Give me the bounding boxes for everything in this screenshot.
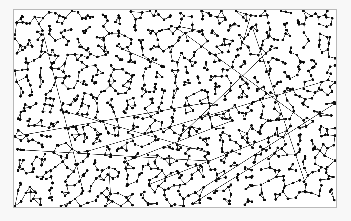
figure-root — [0, 0, 351, 221]
plot-area — [13, 9, 337, 208]
network-scatter-plot — [14, 10, 336, 207]
